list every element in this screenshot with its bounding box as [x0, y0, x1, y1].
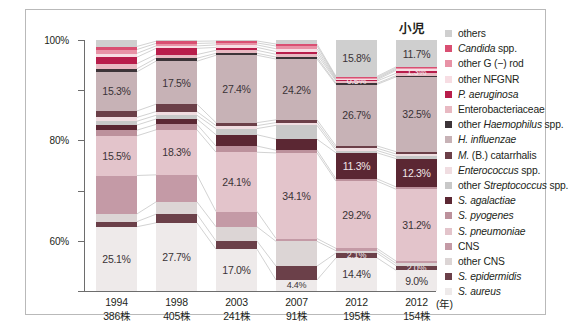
- segment[interactable]: [156, 44, 197, 46]
- segment[interactable]: [96, 125, 137, 130]
- segment[interactable]: 15.5%: [96, 136, 137, 176]
- legend-item[interactable]: Enterobacteriaceae: [445, 102, 571, 117]
- segment[interactable]: [156, 115, 197, 119]
- segment[interactable]: [396, 67, 437, 68]
- segment[interactable]: [156, 104, 197, 111]
- legend-item[interactable]: CNS: [445, 239, 571, 254]
- legend-item[interactable]: other G (−) rod: [445, 56, 571, 71]
- segment[interactable]: [156, 214, 197, 223]
- segment[interactable]: [216, 146, 257, 152]
- legend-item[interactable]: M. (B.) catarrhalis: [445, 148, 571, 163]
- segment[interactable]: [96, 57, 137, 63]
- segment[interactable]: 17.0%: [216, 249, 257, 291]
- segment[interactable]: [396, 261, 437, 263]
- segment[interactable]: [276, 120, 317, 123]
- segment[interactable]: [96, 222, 137, 227]
- segment[interactable]: [396, 152, 437, 154]
- bar-2012-5[interactable]: 9.0%2.0%31.2%12.3%32.5%1.3%11.7%: [396, 40, 437, 291]
- segment[interactable]: [336, 151, 377, 153]
- legend-item[interactable]: P. aeruginosa: [445, 87, 571, 102]
- bar-2007-3[interactable]: 4.4%34.1%24.2%: [276, 40, 317, 291]
- segment[interactable]: [96, 69, 137, 72]
- segment[interactable]: [276, 125, 317, 139]
- segment[interactable]: [216, 43, 257, 45]
- segment[interactable]: [156, 40, 197, 41]
- segment[interactable]: [156, 202, 197, 214]
- segment[interactable]: [276, 49, 317, 52]
- segment[interactable]: [216, 135, 257, 146]
- segment[interactable]: 15.8%: [336, 40, 377, 76]
- segment[interactable]: 2.0%: [396, 266, 437, 271]
- segment[interactable]: [396, 156, 437, 158]
- segment[interactable]: 11.3%: [336, 153, 377, 179]
- segment[interactable]: [276, 139, 317, 150]
- segment[interactable]: [336, 79, 377, 80]
- segment[interactable]: [216, 50, 257, 53]
- segment[interactable]: 24.1%: [216, 152, 257, 211]
- segment[interactable]: [156, 112, 197, 116]
- segment[interactable]: 4.4%: [276, 280, 317, 291]
- segment[interactable]: [216, 40, 257, 41]
- segment[interactable]: 34.1%: [276, 153, 317, 239]
- segment[interactable]: 25.1%: [96, 227, 137, 291]
- legend-item[interactable]: other Streptococcus spp.: [445, 178, 571, 193]
- segment[interactable]: 15.3%: [96, 72, 137, 111]
- segment[interactable]: [396, 68, 437, 69]
- segment[interactable]: 31.2%: [396, 189, 437, 261]
- legend-item[interactable]: S. pyogenes: [445, 208, 571, 223]
- segment[interactable]: [276, 150, 317, 153]
- segment[interactable]: [276, 123, 317, 126]
- segment[interactable]: 1.3%: [396, 71, 437, 74]
- segment[interactable]: [96, 176, 137, 214]
- segment[interactable]: 14.4%: [336, 258, 377, 291]
- segment[interactable]: [156, 58, 197, 61]
- segment[interactable]: [276, 266, 317, 280]
- segment[interactable]: [156, 46, 197, 48]
- segment[interactable]: [396, 187, 437, 189]
- segment[interactable]: [96, 54, 137, 58]
- segment[interactable]: [156, 119, 197, 124]
- segment[interactable]: 18.3%: [156, 130, 197, 175]
- legend-item[interactable]: others: [445, 26, 571, 41]
- segment[interactable]: [396, 69, 437, 70]
- segment[interactable]: [156, 41, 197, 43]
- segment[interactable]: [216, 41, 257, 43]
- segment[interactable]: [336, 78, 377, 79]
- legend-item[interactable]: S. pneumoniae: [445, 223, 571, 238]
- segment[interactable]: [396, 263, 437, 265]
- legend-item[interactable]: other CNS: [445, 254, 571, 269]
- segment[interactable]: [216, 227, 257, 241]
- legend-item[interactable]: S. aureus: [445, 284, 571, 299]
- segment[interactable]: [96, 130, 137, 136]
- legend-item[interactable]: S. agalactiae: [445, 193, 571, 208]
- bar-2012-4[interactable]: 14.4%2.1%29.2%11.3%26.7%0.5%15.8%: [336, 40, 377, 291]
- segment[interactable]: [96, 47, 137, 50]
- bar-2003-2[interactable]: 17.0%24.1%27.4%: [216, 40, 257, 291]
- segment[interactable]: [96, 50, 137, 54]
- segment[interactable]: [156, 175, 197, 202]
- segment[interactable]: 0.5%: [336, 80, 377, 81]
- segment[interactable]: [156, 124, 197, 129]
- segment[interactable]: 27.4%: [216, 55, 257, 122]
- segment[interactable]: 26.7%: [336, 85, 377, 146]
- segment[interactable]: [336, 248, 377, 250]
- legend-item[interactable]: other Haemophilus spp.: [445, 117, 571, 132]
- segment[interactable]: [216, 129, 257, 135]
- legend-item[interactable]: H. influenzae: [445, 132, 571, 147]
- segment[interactable]: 11.7%: [396, 40, 437, 67]
- segment[interactable]: [96, 214, 137, 222]
- segment[interactable]: [276, 57, 317, 59]
- legend-item[interactable]: S. epidermidis: [445, 269, 571, 284]
- segment[interactable]: [216, 241, 257, 249]
- segment[interactable]: 17.5%: [156, 61, 197, 104]
- segment[interactable]: [96, 111, 137, 117]
- segment[interactable]: [96, 40, 137, 46]
- segment[interactable]: 2.1%: [336, 253, 377, 258]
- segment[interactable]: 9.0%: [396, 270, 437, 291]
- segment[interactable]: 24.2%: [276, 59, 317, 120]
- legend-item[interactable]: Enterococcus spp.: [445, 163, 571, 178]
- segment[interactable]: [156, 48, 197, 54]
- segment[interactable]: [276, 46, 317, 49]
- segment[interactable]: 29.2%: [336, 181, 377, 248]
- segment[interactable]: [336, 148, 377, 150]
